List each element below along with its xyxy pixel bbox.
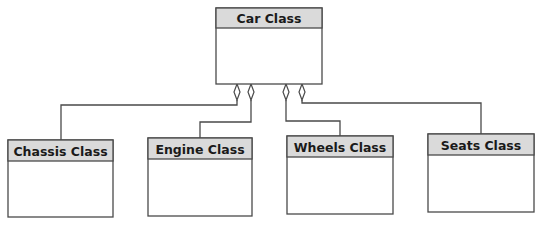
class-seats-title: Seats Class bbox=[441, 138, 521, 153]
class-diagram: Car Class Chassis Class Engine Class Whe… bbox=[0, 0, 541, 226]
class-engine-title: Engine Class bbox=[155, 142, 244, 157]
class-wheels[interactable]: Wheels Class bbox=[287, 136, 393, 214]
aggregation-line-chassis bbox=[61, 100, 237, 140]
class-car[interactable]: Car Class bbox=[216, 8, 322, 84]
class-chassis[interactable]: Chassis Class bbox=[8, 140, 113, 217]
aggregation-line-wheels bbox=[286, 100, 340, 136]
class-wheels-title: Wheels Class bbox=[294, 140, 387, 155]
aggregation-diamond-icon bbox=[234, 84, 240, 100]
aggregation-diamond-icon bbox=[248, 84, 254, 100]
class-engine[interactable]: Engine Class bbox=[148, 138, 252, 216]
aggregation-line-seats bbox=[302, 100, 481, 134]
class-chassis-title: Chassis Class bbox=[13, 144, 107, 159]
aggregation-diamond-icon bbox=[299, 84, 305, 100]
class-car-title: Car Class bbox=[237, 11, 302, 26]
class-seats[interactable]: Seats Class bbox=[428, 134, 534, 212]
aggregation-line-engine bbox=[200, 100, 251, 138]
aggregation-diamond-icon bbox=[283, 84, 289, 100]
